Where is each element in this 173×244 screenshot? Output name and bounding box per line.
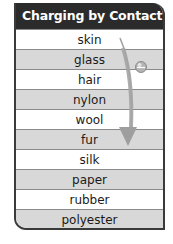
- table-row-wool: wool: [16, 109, 163, 129]
- table-row-polyester: polyester: [16, 209, 163, 229]
- table-row-fur: fur: [16, 129, 163, 149]
- table-row-glass: glass: [16, 49, 163, 69]
- table-row-nylon: nylon: [16, 89, 163, 109]
- table-title: Charging by Contact: [16, 3, 163, 29]
- table-row-paper: paper: [16, 169, 163, 189]
- table-row-hair: hair: [16, 69, 163, 89]
- table-row-skin: skin: [16, 29, 163, 49]
- table-row-silk: silk: [16, 149, 163, 169]
- table-row-rubber: rubber: [16, 189, 163, 209]
- triboelectric-series-table: Charging by Contact skin glass hair nylo…: [14, 3, 165, 230]
